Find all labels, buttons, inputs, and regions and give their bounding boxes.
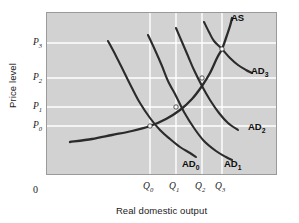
curve-label-ad0: AD0 xyxy=(182,159,200,172)
plot-area xyxy=(46,12,277,175)
curve-label-ad1: AD1 xyxy=(224,159,242,172)
x-axis-title: Real domestic output xyxy=(46,205,277,216)
curve-label-ad2: AD2 xyxy=(248,122,266,135)
y-axis-title: Price level xyxy=(7,51,18,121)
x-tick-q0: Q0 xyxy=(143,182,153,193)
y-tick-p0: P0 xyxy=(22,121,42,132)
origin-label: 0 xyxy=(33,184,38,195)
x-tick-q1: Q1 xyxy=(169,182,179,193)
x-tick-q3: Q3 xyxy=(215,182,225,193)
y-tick-p3: P3 xyxy=(22,38,42,49)
curve-label-as: AS xyxy=(231,13,244,23)
y-tick-p1: P1 xyxy=(22,102,42,113)
x-tick-q2: Q2 xyxy=(195,182,205,193)
as-ad-chart-figure: P3 P2 P1 P0 Q0 Q1 Q2 Q3 0 Price level Re… xyxy=(0,0,299,223)
y-tick-p2: P2 xyxy=(22,73,42,84)
curve-label-ad3: AD3 xyxy=(251,66,269,79)
